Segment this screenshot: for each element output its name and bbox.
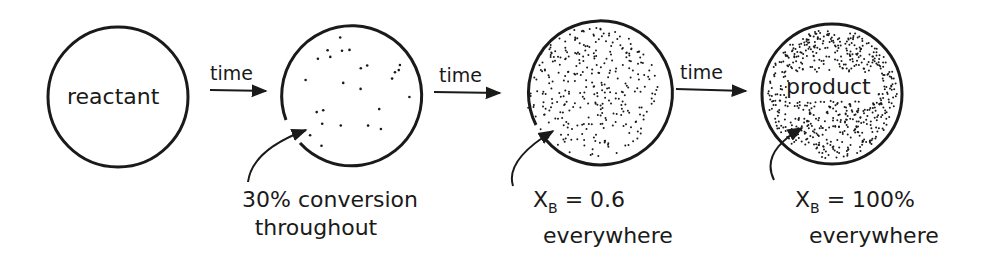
pointer-arrow-3 <box>512 131 553 186</box>
stage-4-note: XB = 100% everywhere <box>795 186 939 250</box>
stage-4-note-line1: XB = 100% <box>795 186 939 222</box>
stage-2-note-line2: throughout <box>214 214 418 242</box>
stage-4-note-line2: everywhere <box>809 222 939 250</box>
stage-2-note-line1: 30% conversion <box>242 186 418 214</box>
product-label: product <box>786 74 871 99</box>
stage-2-note: 30% conversion throughout <box>242 186 418 242</box>
time-label-1: time <box>210 62 253 84</box>
stage-2-dots <box>304 36 410 147</box>
time-arrow-3 <box>676 89 746 91</box>
time-arrow-2 <box>434 92 500 93</box>
time-label-2: time <box>439 64 482 86</box>
time-arrow-1 <box>210 90 266 91</box>
time-label-3: time <box>680 61 723 83</box>
stage-3-note-line2: everywhere <box>543 222 673 250</box>
reactant-label: reactant <box>67 84 159 109</box>
stage-2-particle <box>282 26 422 166</box>
stage-3-note-line1: XB = 0.6 <box>533 186 673 222</box>
pointer-arrow-2 <box>248 130 306 182</box>
stage-3-note: XB = 0.6 everywhere <box>533 186 673 250</box>
